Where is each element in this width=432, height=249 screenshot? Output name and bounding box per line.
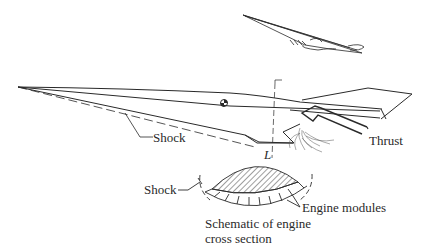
caption-line-2: cross section (205, 232, 272, 246)
engine-modules-label: Engine modules (302, 201, 386, 215)
lift-line (272, 80, 282, 158)
shock-label: Shock (153, 131, 186, 145)
inset-aircraft (243, 15, 364, 53)
cross-section-shock-label: Shock (144, 183, 177, 197)
shock-line (18, 87, 255, 147)
main-vehicle (18, 87, 412, 143)
thrust-label: Thrust (369, 134, 403, 148)
engine-cross-section (178, 167, 312, 207)
exhaust-plume (289, 128, 334, 152)
caption-line-1: Schematic of engine (205, 217, 311, 231)
vehicle-diagram: Shock Thrust L Shock Engine modules Sche… (0, 0, 432, 249)
lift-label: L (264, 148, 271, 162)
